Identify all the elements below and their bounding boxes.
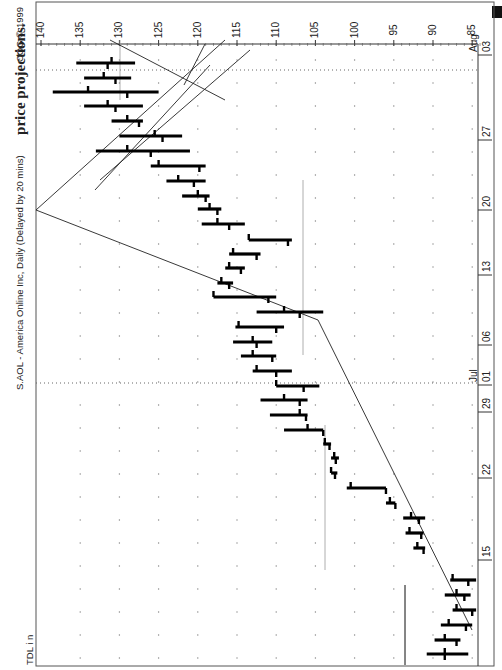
- grid-dot: [315, 404, 316, 405]
- grid-dot: [276, 82, 277, 83]
- grid-dot: [472, 565, 473, 566]
- price-tick-label: 130: [113, 21, 124, 38]
- grid-dot: [158, 611, 159, 612]
- grid-dot: [354, 174, 355, 175]
- grid-dot: [472, 588, 473, 589]
- date-tick-label: 20: [481, 195, 492, 207]
- grid-dot: [197, 611, 198, 612]
- grid-dot: [393, 611, 394, 612]
- grid-dot: [432, 312, 433, 313]
- grid-dot: [276, 519, 277, 520]
- grid-dot: [197, 289, 198, 290]
- grid-dot: [354, 82, 355, 83]
- grid-dot: [354, 611, 355, 612]
- page-frame: [36, 2, 494, 666]
- grid-dot: [393, 105, 394, 106]
- grid-dot: [276, 220, 277, 221]
- grid-dot: [393, 404, 394, 405]
- grid-dot: [119, 519, 120, 520]
- grid-dot: [315, 588, 316, 589]
- grid-dot: [432, 634, 433, 635]
- grid-dot: [119, 450, 120, 451]
- grid-dot: [158, 105, 159, 106]
- grid-dot: [472, 473, 473, 474]
- grid-dot: [119, 174, 120, 175]
- date-tick-label: 27: [481, 125, 492, 137]
- grid-dot: [197, 496, 198, 497]
- grid-dot: [119, 473, 120, 474]
- grid-dot: [80, 335, 81, 336]
- grid-dot: [354, 151, 355, 152]
- grid-dot: [472, 151, 473, 152]
- grid-dot: [432, 381, 433, 382]
- grid-dot: [197, 312, 198, 313]
- grid-dot: [276, 450, 277, 451]
- grid-dot: [432, 565, 433, 566]
- price-tick-label: 140: [35, 21, 46, 38]
- grid-dot: [236, 128, 237, 129]
- grid-dot: [197, 427, 198, 428]
- grid-dot: [80, 312, 81, 313]
- trendline: [95, 65, 210, 190]
- grid-dot: [393, 496, 394, 497]
- grid-dot: [393, 381, 394, 382]
- grid-dot: [354, 220, 355, 221]
- grid-dot: [80, 289, 81, 290]
- grid-dot: [80, 266, 81, 267]
- grid-dot: [393, 358, 394, 359]
- grid-dot: [236, 657, 237, 658]
- grid-dot: [236, 519, 237, 520]
- grid-dot: [276, 243, 277, 244]
- grid-dot: [158, 197, 159, 198]
- grid-dot: [158, 473, 159, 474]
- grid-dot: [276, 427, 277, 428]
- grid-dot: [158, 404, 159, 405]
- date-tick-label: 29: [481, 397, 492, 409]
- grid-dot: [354, 358, 355, 359]
- grid-dot: [80, 151, 81, 152]
- grid-dot: [472, 197, 473, 198]
- date-tick-label: 13: [481, 260, 492, 272]
- grid-dot: [393, 151, 394, 152]
- grid-dot: [315, 519, 316, 520]
- price-tick-label: 110: [270, 22, 281, 38]
- grid-dot: [276, 634, 277, 635]
- grid-dot: [197, 358, 198, 359]
- date-tick-label: 22: [481, 463, 492, 475]
- grid-dot: [158, 496, 159, 497]
- grid-dot: [315, 174, 316, 175]
- grid-dot: [472, 243, 473, 244]
- grid-dot: [158, 82, 159, 83]
- grid-dot: [315, 496, 316, 497]
- grid-dot: [354, 105, 355, 106]
- price-tick-label: 85: [466, 24, 477, 36]
- price-tick-label: 90: [427, 24, 438, 36]
- grid-dot: [315, 105, 316, 106]
- grid-dot: [236, 151, 237, 152]
- grid-dot: [472, 657, 473, 658]
- grid-dot: [315, 634, 316, 635]
- grid-dot: [393, 450, 394, 451]
- grid-dot: [315, 243, 316, 244]
- grid-dot: [236, 220, 237, 221]
- grid-dot: [158, 312, 159, 313]
- grid-dot: [472, 450, 473, 451]
- grid-dot: [197, 128, 198, 129]
- grid-dot: [197, 151, 198, 152]
- date-month-label: Jul: [468, 369, 479, 382]
- grid-dot: [393, 128, 394, 129]
- grid-dot: [432, 105, 433, 106]
- grid-dot: [276, 174, 277, 175]
- grid-dot: [354, 427, 355, 428]
- grid-dot: [119, 427, 120, 428]
- grid-dot: [432, 611, 433, 612]
- grid-dot: [119, 381, 120, 382]
- grid-dot: [158, 519, 159, 520]
- grid-dot: [119, 611, 120, 612]
- grid-dot: [197, 450, 198, 451]
- grid-dot: [315, 450, 316, 451]
- grid-dot: [158, 243, 159, 244]
- grid-dot: [432, 542, 433, 543]
- grid-dot: [354, 266, 355, 267]
- grid-dot: [276, 266, 277, 267]
